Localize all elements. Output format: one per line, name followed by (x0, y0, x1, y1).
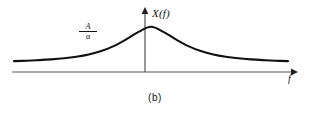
figure-container: X(f) f A α (b) (0, 0, 310, 113)
peak-value-label: A α (79, 23, 97, 42)
spectrum-curve (14, 27, 288, 61)
x-axis-arrowhead (291, 68, 298, 75)
peak-value-denominator: α (79, 32, 97, 41)
y-axis-label: X(f) (152, 8, 170, 19)
y-axis-arrowhead (142, 7, 149, 14)
figure-caption: (b) (0, 93, 310, 103)
x-axis-label: f (288, 74, 291, 84)
peak-value-numerator: A (79, 23, 97, 32)
